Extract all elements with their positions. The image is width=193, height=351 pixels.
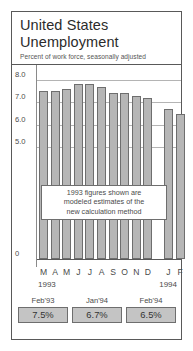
x-tick-label: J — [73, 267, 84, 277]
bar — [176, 114, 185, 259]
bar — [143, 98, 152, 259]
y-tick-label: 8.0 — [15, 71, 26, 79]
x-tick-label: F — [175, 267, 186, 277]
callout-value: 7.5% — [18, 307, 68, 323]
bar — [74, 84, 83, 259]
x-tick-label: J — [163, 267, 174, 277]
annotation-line-2: modeled estimates of the — [46, 197, 162, 206]
plot-area: 05.06.07.08.0 1993 figures shown are mod… — [12, 65, 181, 267]
bar — [85, 84, 94, 259]
annotation-line-3: new calculation method — [46, 207, 162, 216]
page-title-line-2: Unemployment — [20, 34, 181, 51]
callout-label: Feb'93 — [18, 296, 68, 305]
chart-annotation: 1993 figures shown are modeled estimates… — [41, 185, 167, 220]
x-tick-label: D — [142, 267, 153, 277]
x-tick-label: M — [61, 267, 72, 277]
x-axis-year-right: 1994 — [159, 280, 177, 289]
chart-header: United States Unemployment Percent of wo… — [12, 12, 181, 65]
x-tick-label: O — [119, 267, 130, 277]
callout-0: Feb'937.5% — [18, 296, 68, 323]
bar — [132, 96, 141, 259]
annotation-line-1: 1993 figures shown are — [46, 188, 162, 197]
bar — [97, 87, 106, 259]
x-axis: MAMJJASONDJF 1993 1994 — [37, 267, 181, 293]
x-tick-label: S — [108, 267, 119, 277]
bar — [39, 91, 48, 259]
bar-series — [37, 65, 181, 267]
x-axis-year-left: 1993 — [38, 280, 56, 289]
page-title-line-1: United States — [20, 17, 181, 34]
chart-subtitle: Percent of work force, seasonally adjust… — [20, 53, 181, 61]
x-tick-label: M — [38, 267, 49, 277]
y-tick-label: 6.0 — [15, 116, 26, 124]
callout-value: 6.7% — [72, 307, 122, 323]
x-tick-label: A — [96, 267, 107, 277]
x-tick-label: A — [50, 267, 61, 277]
bar — [120, 93, 129, 259]
callout-2: Feb'946.5% — [126, 296, 176, 323]
callout-row: Feb'937.5%Jan'946.7%Feb'946.5% — [12, 296, 181, 341]
callout-label: Jan'94 — [72, 296, 122, 305]
bar — [62, 89, 71, 259]
bar — [109, 93, 118, 259]
callout-1: Jan'946.7% — [72, 296, 122, 323]
bar — [51, 91, 60, 259]
y-tick-label: 0 — [15, 250, 19, 258]
y-tick-label: 5.0 — [15, 138, 26, 146]
x-tick-label: J — [84, 267, 95, 277]
x-tick-label: N — [131, 267, 142, 277]
callout-value: 6.5% — [126, 307, 176, 323]
callout-label: Feb'94 — [126, 296, 176, 305]
chart-figure: United States Unemployment Percent of wo… — [11, 11, 182, 340]
y-tick-label: 7.0 — [15, 93, 26, 101]
